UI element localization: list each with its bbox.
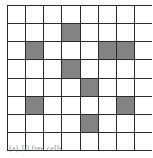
grid-cell-empty[interactable] [116,114,134,132]
grid-row [8,114,153,132]
grid-cell-empty[interactable] [98,24,116,42]
grid-cell-empty[interactable] [98,96,116,114]
grid-cell-empty[interactable] [62,96,80,114]
grid-row [8,78,153,96]
grid-cell-shaded[interactable] [116,42,134,60]
grid-cell-empty[interactable] [8,114,26,132]
grid-cell-empty[interactable] [80,6,98,24]
grid-cell-empty[interactable] [62,114,80,132]
grid-cell-empty[interactable] [80,60,98,78]
grid-row [8,6,153,24]
grid-cell-empty[interactable] [134,60,152,78]
grid-cell-empty[interactable] [26,24,44,42]
grid-cell-empty[interactable] [8,96,26,114]
grid-row [8,96,153,114]
grid-cell-empty[interactable] [134,24,152,42]
grid-cell-empty[interactable] [44,114,62,132]
grid-cell-empty[interactable] [98,6,116,24]
grid-cell-shaded[interactable] [62,60,80,78]
grid-cell-shaded[interactable] [26,96,44,114]
figure-caption: (a) 10 free cells [9,144,149,154]
grid-cell-shaded[interactable] [26,42,44,60]
grid-row [8,42,153,60]
grid-cell-empty[interactable] [44,96,62,114]
grid-cell-empty[interactable] [8,24,26,42]
grid-cell-empty[interactable] [8,42,26,60]
grid-cell-empty[interactable] [98,78,116,96]
grid-cell-empty[interactable] [116,6,134,24]
grid-cell-empty[interactable] [8,60,26,78]
grid-cell-empty[interactable] [8,78,26,96]
grid-cell-empty[interactable] [134,78,152,96]
grid-cell-empty[interactable] [116,78,134,96]
grid-cell-empty[interactable] [134,42,152,60]
figure-root: (a) 10 free cells [0,0,152,158]
grid-cell-empty[interactable] [80,42,98,60]
grid-row [8,60,153,78]
grid-cell-empty[interactable] [8,6,26,24]
grid-cell-empty[interactable] [44,60,62,78]
grid-cell-empty[interactable] [80,96,98,114]
grid-container [7,5,144,142]
grid-cell-empty[interactable] [98,114,116,132]
grid-cell-shaded[interactable] [62,24,80,42]
grid-cell-empty[interactable] [26,78,44,96]
grid-body [8,6,153,151]
grid-cell-empty[interactable] [134,96,152,114]
grid-cell-empty[interactable] [116,24,134,42]
grid-cell-empty[interactable] [44,6,62,24]
grid-row [8,24,153,42]
grid-cell-empty[interactable] [44,42,62,60]
grid-cell-empty[interactable] [134,6,152,24]
grid-cell-empty[interactable] [62,6,80,24]
grid-cell-shaded[interactable] [116,96,134,114]
grid-cell-empty[interactable] [44,24,62,42]
grid-cell-empty[interactable] [26,114,44,132]
grid-cell-shaded[interactable] [80,78,98,96]
grid-cell-empty[interactable] [116,60,134,78]
grid-cell-empty[interactable] [44,78,62,96]
grid-cell-empty[interactable] [98,60,116,78]
grid-cell-empty[interactable] [80,24,98,42]
grid-cell-empty[interactable] [62,78,80,96]
grid-cell-shaded[interactable] [80,114,98,132]
grid-cell-empty[interactable] [62,42,80,60]
grid-cell-empty[interactable] [134,114,152,132]
grid-cell-empty[interactable] [26,6,44,24]
cell-grid [7,5,152,151]
grid-cell-empty[interactable] [26,60,44,78]
grid-cell-shaded[interactable] [98,42,116,60]
